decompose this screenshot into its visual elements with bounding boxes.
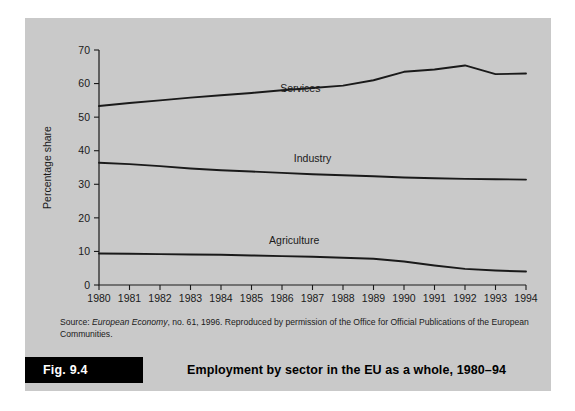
svg-text:1991: 1991 [423, 292, 447, 304]
svg-text:1983: 1983 [179, 292, 203, 304]
x-axis-ticks: 1980198119821983198419851986198719881989… [87, 285, 538, 304]
series-label-agriculture: Agriculture [269, 234, 319, 246]
figure-title: Employment by sector in the EU as a whol… [187, 357, 506, 383]
svg-text:1984: 1984 [209, 292, 233, 304]
source-prefix: Source: [60, 317, 92, 327]
chart-series-labels: ServicesIndustryAgriculture [269, 82, 332, 246]
y-axis-title: Percentage share [41, 126, 53, 209]
series-line-agriculture [99, 253, 526, 271]
svg-text:30: 30 [78, 178, 90, 190]
svg-text:40: 40 [78, 144, 90, 156]
svg-text:1993: 1993 [484, 292, 508, 304]
svg-text:60: 60 [78, 77, 90, 89]
svg-text:70: 70 [78, 44, 90, 56]
y-axis-title-text: Percentage share [41, 126, 53, 209]
series-line-industry [99, 163, 526, 180]
svg-text:1987: 1987 [301, 292, 325, 304]
svg-text:1990: 1990 [392, 292, 416, 304]
svg-text:0: 0 [84, 279, 90, 291]
svg-text:1988: 1988 [331, 292, 355, 304]
svg-text:1986: 1986 [270, 292, 294, 304]
source-note: Source: European Economy, no. 61, 1996. … [60, 316, 542, 341]
figure-caption-row: Fig. 9.4 Employment by sector in the EU … [25, 357, 551, 383]
svg-text:1981: 1981 [118, 292, 142, 304]
series-label-industry: Industry [294, 152, 332, 164]
svg-text:50: 50 [78, 111, 90, 123]
figure-root: 010203040506070 198019811982198319841985… [0, 0, 575, 411]
svg-text:1985: 1985 [240, 292, 264, 304]
svg-text:1980: 1980 [87, 292, 111, 304]
svg-text:20: 20 [78, 212, 90, 224]
svg-text:1994: 1994 [514, 292, 538, 304]
source-publication: European Economy [92, 317, 167, 327]
figure-number-badge: Fig. 9.4 [25, 357, 143, 383]
y-axis-ticks: 010203040506070 [78, 44, 99, 291]
svg-text:1992: 1992 [453, 292, 477, 304]
svg-text:10: 10 [78, 245, 90, 257]
svg-text:1982: 1982 [148, 292, 172, 304]
series-label-services: Services [280, 82, 320, 94]
svg-text:1989: 1989 [362, 292, 386, 304]
